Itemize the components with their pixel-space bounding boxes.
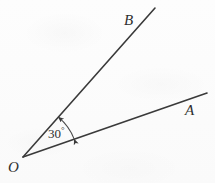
angle-value: 30 <box>48 126 61 141</box>
ray-label-a: A <box>185 103 194 118</box>
ray-label-b: B <box>124 13 133 28</box>
geometry-figure: O A B 30° <box>0 0 215 183</box>
angle-measure-label: 30° <box>48 126 65 140</box>
angle-diagram-svg <box>0 0 215 183</box>
degree-symbol: ° <box>61 125 65 135</box>
vertex-label-o: O <box>8 160 19 175</box>
